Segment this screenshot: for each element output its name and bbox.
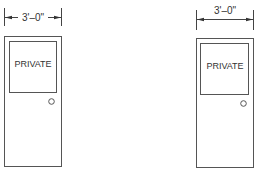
left-door-elevation: 3'–0" PRIVATE [5, 8, 62, 167]
left-door-knob-icon [49, 99, 55, 105]
left-dimension-arrow-left-icon [5, 16, 12, 19]
right-door-knob-icon [241, 101, 247, 107]
left-dimension-arrow-right-icon [54, 16, 61, 19]
door-elevations-drawing: 3'–0" PRIVATE 3'–0" PRIVATE [0, 0, 265, 191]
right-door-elevation: 3'–0" PRIVATE [197, 5, 254, 168]
right-door-outline [197, 39, 254, 168]
right-window-label: PRIVATE [206, 61, 243, 71]
left-dimension-label: 3'–0" [22, 12, 45, 23]
right-dimension-arrow-right-icon [246, 18, 253, 21]
right-dimension-arrow-left-icon [197, 18, 204, 21]
left-door-outline [5, 37, 62, 167]
right-dimension-label: 3'–0" [214, 5, 237, 16]
left-window-label: PRIVATE [14, 59, 51, 69]
